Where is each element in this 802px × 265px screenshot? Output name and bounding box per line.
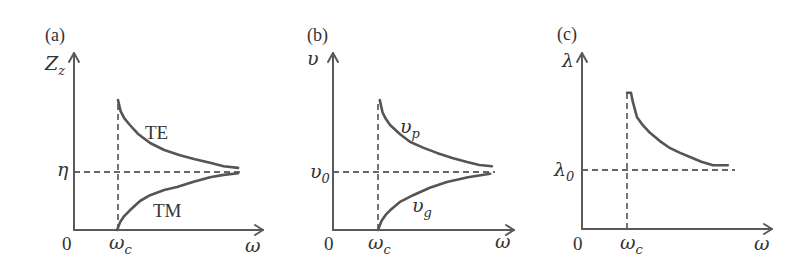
lambda0-label-main: λ <box>553 158 566 180</box>
vg-label-main: υ <box>412 194 424 216</box>
lambda0-label: λ0 <box>553 158 574 184</box>
cutoff-label-main: ω <box>368 231 384 253</box>
cutoff-label-main: ω <box>620 231 636 253</box>
v0-label-main: υ <box>310 160 322 182</box>
cutoff-label-main: ω <box>109 231 125 253</box>
cutoff-label: ωc <box>368 231 392 257</box>
y-axis-label: υ <box>307 47 319 69</box>
vg-label-sub: g <box>424 205 432 220</box>
vg-label: υg <box>412 194 432 220</box>
cutoff-label: ωc <box>620 231 644 257</box>
waveguide-figure: (a) Zz η 0 ωc ω TE TM (b) υ υ0 <box>0 0 802 265</box>
phase-velocity-curve <box>380 100 492 166</box>
x-axis-label: ω <box>495 230 511 252</box>
cutoff-label-sub: c <box>636 242 644 257</box>
y-axis-label: λ <box>561 49 574 71</box>
panel-b: (b) υ υ0 0 ωc ω υp υg <box>307 25 514 257</box>
y-label-sub: z <box>57 63 65 78</box>
cutoff-label: ωc <box>109 231 133 257</box>
cutoff-label-sub: c <box>384 242 392 257</box>
v0-label: υ0 <box>310 160 330 186</box>
vp-label-main: υ <box>400 115 412 137</box>
y-label-main: Z <box>44 52 59 74</box>
eta-label: η <box>57 158 69 180</box>
y-axis-label: Zz <box>44 52 65 78</box>
x-axis-label: ω <box>245 234 261 256</box>
cutoff-label-sub: c <box>125 242 133 257</box>
origin-label: 0 <box>324 233 334 254</box>
panel-a: (a) Zz η 0 ωc ω TE TM <box>44 25 263 257</box>
lambda0-label-sub: 0 <box>566 169 574 184</box>
x-axis-label: ω <box>754 232 770 254</box>
origin-label: 0 <box>62 233 72 254</box>
panel-tag: (b) <box>307 25 328 46</box>
vp-label-sub: p <box>412 126 421 141</box>
panel-tag: (c) <box>557 24 577 45</box>
panel-c: (c) λ λ0 0 ωc ω <box>553 24 772 257</box>
group-velocity-curve <box>378 174 490 230</box>
v0-label-sub: 0 <box>322 171 330 186</box>
wavelength-curve <box>627 93 728 166</box>
panel-tag: (a) <box>45 25 65 46</box>
te-label: TE <box>145 122 168 143</box>
origin-label: 0 <box>573 233 583 254</box>
te-curve <box>118 100 238 168</box>
tm-label: TM <box>153 200 182 221</box>
